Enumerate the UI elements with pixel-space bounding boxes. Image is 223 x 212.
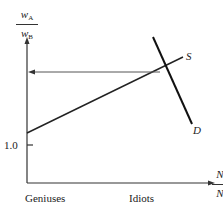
y-axis-label: wA wB xyxy=(16,8,38,41)
x-axis-label: NI NI xyxy=(212,168,223,201)
equilibrium-arrow-icon xyxy=(28,70,35,75)
x-right-label: Idiots xyxy=(129,193,154,204)
supply-label: S xyxy=(186,51,192,62)
x-left-label: Geniuses xyxy=(25,193,65,204)
tick-label-1-0: 1.0 xyxy=(4,140,18,151)
demand-label: D xyxy=(193,125,201,136)
supply-line xyxy=(27,57,183,133)
